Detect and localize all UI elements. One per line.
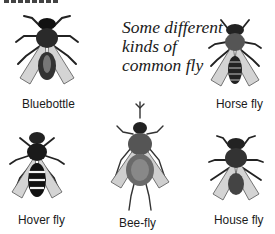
fly-label: Bluebottle: [22, 96, 75, 111]
hover-fly-illustration: [6, 126, 68, 202]
cut-off-text-line: [4, 0, 60, 4]
horse-fly-illustration: [205, 16, 265, 92]
house-fly-illustration: [207, 132, 265, 204]
fly-label: Horse fly: [216, 96, 263, 111]
bluebottle-illustration: [12, 12, 82, 90]
bee-fly-illustration: [103, 100, 177, 212]
fly-label: Bee-fly: [119, 215, 156, 230]
fly-label: House fly: [214, 212, 264, 227]
fly-label: Hover fly: [18, 212, 65, 227]
